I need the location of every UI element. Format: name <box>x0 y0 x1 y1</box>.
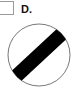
option-label: D. <box>21 2 32 16</box>
national-speed-limit-sign-icon[interactable] <box>7 23 71 87</box>
answer-checkbox[interactable] <box>0 1 14 15</box>
